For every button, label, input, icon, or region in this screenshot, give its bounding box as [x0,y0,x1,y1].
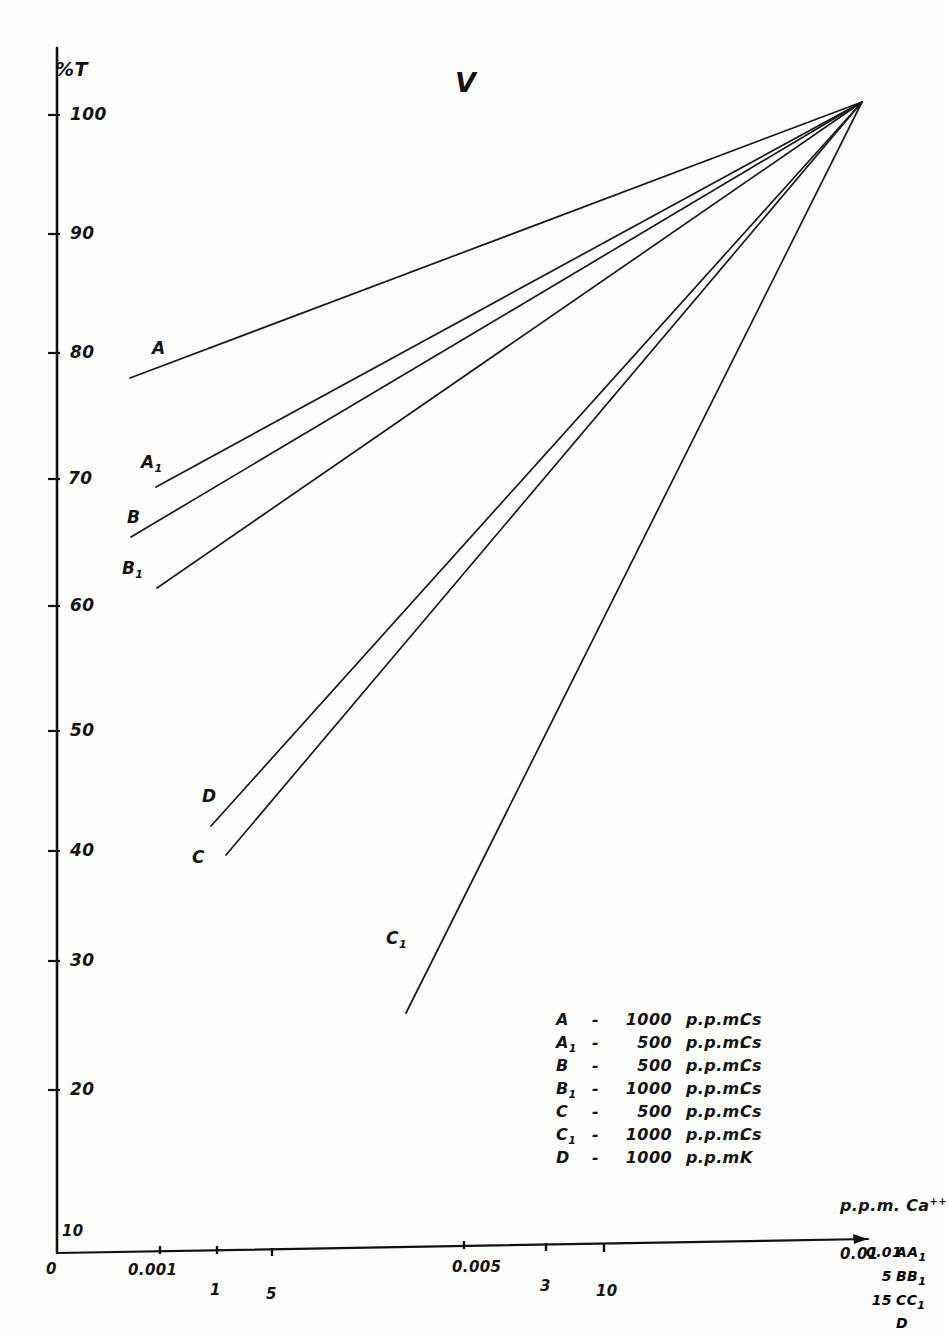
x-tick-marks [160,1241,604,1256]
right-axis-notes: 0.01AA1 5BB1 15CC1 D [866,1243,927,1333]
right-axis-note-row-2: 5BB1 [866,1267,927,1291]
legend-row-A1: A1 - 500 p.p.m. Cs [556,1031,762,1054]
curve-label-A1: A1 [141,452,163,475]
legend-dash-A1: - [592,1031,610,1054]
legend-species-D: K [740,1148,753,1167]
legend-unit-C: p.p.m [678,1100,734,1123]
data-lines [130,102,862,1013]
x-tick-label-1: 1 [210,1281,221,1299]
x-axis-label-text: p.p.m. Ca [840,1196,930,1215]
legend-amount-B: 500 [616,1054,672,1077]
x-axis [57,1239,868,1253]
right-axis-note-code-2: BB [896,1268,918,1284]
curve-label-C1: C1 [386,928,407,951]
legend-dash-A: - [592,1008,610,1031]
legend-species-A1: Cs [740,1033,762,1052]
legend-amount-A: 1000 [616,1008,672,1031]
legend-unit-B1: p.p.m. [678,1077,734,1100]
legend: A - 1000 p.p.m. Cs A1 - 500 p.p.m. Cs B … [556,1008,762,1169]
curve-label-B1-text: B [122,558,135,578]
curve-label-C: C [192,847,205,867]
legend-key-A-text: A [556,1010,569,1029]
y-tick-label-80: 80 [70,342,94,362]
right-axis-note-code-1: AA [896,1244,918,1260]
curve-label-C1-text: C [386,928,399,948]
y-tick-label-20: 20 [70,1079,94,1099]
right-axis-note-sub-3: 1 [917,1298,925,1311]
legend-unit-B: p.p.m. [678,1054,734,1077]
legend-dash-C1: - [592,1123,610,1146]
legend-key-B-text: B [556,1056,569,1075]
legend-species-B: Cs [740,1056,762,1075]
legend-unit-A: p.p.m. [678,1008,734,1031]
x-tick-label-10: 10 [596,1282,618,1300]
x-axis-label: p.p.m. Ca++ [840,1196,947,1215]
legend-amount-C: 500 [616,1100,672,1123]
right-axis-note-row-3: 15CC1 [866,1291,927,1315]
legend-row-B1: B1 - 1000 p.p.m. Cs [556,1077,762,1100]
x-axis-label-superscript: ++ [930,1196,948,1207]
curve-label-A1-text: A [141,452,155,472]
right-axis-note-row-1: 0.01AA1 [866,1243,927,1267]
curve-label-B1: B1 [122,558,143,581]
legend-row-D: D - 1000 p.p.m. K [556,1146,762,1169]
curve-label-D-text: D [202,786,217,806]
legend-key-B1-text: B [556,1079,569,1098]
x-origin-label: 0 [46,1260,57,1278]
legend-amount-C1: 1000 [616,1123,672,1146]
right-axis-note-num-2: 5 [866,1267,896,1286]
legend-dash-B1: - [592,1077,610,1100]
curve-label-B1-sub: 1 [135,568,143,581]
curve-label-A1-sub: 1 [155,462,163,475]
legend-amount-B1: 1000 [616,1077,672,1100]
line-A [130,102,862,378]
right-axis-note-code-4: D [896,1315,908,1331]
x-tick-label-0001: 0.001 [128,1261,177,1279]
legend-dash-C: - [592,1100,610,1123]
legend-amount-A1: 500 [616,1031,672,1054]
legend-key-D: D [556,1146,586,1175]
curve-label-D: D [202,786,217,806]
line-B1 [157,102,862,588]
legend-unit-D: p.p.m. [678,1146,734,1169]
x-tick-label-3: 3 [540,1277,551,1295]
y-tick-label-10: 10 [62,1222,84,1240]
curve-label-A-text: A [152,338,166,358]
y-tick-label-40: 40 [70,840,94,860]
legend-key-A1-text: A [556,1033,569,1052]
figure-title: V [455,67,476,98]
legend-row-B: B - 500 p.p.m. Cs [556,1054,762,1077]
legend-key-C1-text: C [556,1125,568,1144]
line-A1 [156,102,862,487]
legend-key-C-text: C [556,1102,568,1121]
legend-dash-D: - [592,1146,610,1169]
right-axis-note-num-3: 15 [866,1291,896,1310]
y-tick-label-90: 90 [70,223,94,243]
line-C [226,102,862,855]
legend-species-A: Cs [740,1010,762,1029]
legend-key-D-text: D [556,1148,570,1167]
y-tick-label-100: 100 [70,104,107,124]
y-tick-label-50: 50 [70,720,94,740]
legend-unit-C1: p.p.m. [678,1123,734,1146]
legend-species-C: Cs [740,1102,762,1121]
legend-unit-A1: p.p.m. [678,1031,734,1054]
y-tick-label-70: 70 [68,468,92,488]
curve-label-B: B [127,507,140,527]
curve-label-B-text: B [127,507,140,527]
right-axis-note-row-4: D [866,1314,927,1333]
right-axis-note-sub-1: 1 [918,1251,926,1264]
curve-label-C-text: C [192,847,205,867]
legend-row-C1: C1 - 1000 p.p.m. Cs [556,1123,762,1146]
curve-label-C1-sub: 1 [399,938,407,951]
legend-species-B1: Cs [740,1079,762,1098]
right-axis-note-code-3: CC [896,1292,917,1308]
y-axis-label: %T [55,58,88,80]
y-tick-label-60: 60 [70,595,94,615]
right-axis-note-sub-2: 1 [918,1275,926,1288]
x-tick-label-5: 5 [266,1285,277,1303]
legend-row-C: C - 500 p.p.m Cs [556,1100,762,1123]
right-axis-note-num-1: 0.01 [866,1243,896,1262]
figure-page: V %T 100 90 80 70 60 50 40 30 20 10 0 0.… [0,0,948,1342]
legend-dash-B: - [592,1054,610,1077]
